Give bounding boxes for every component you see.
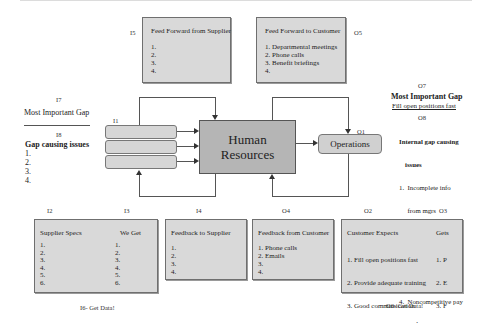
issues-title: Internal gap causing (399, 138, 463, 146)
tag-o3: O3 (439, 207, 447, 214)
connector (177, 161, 194, 162)
col2-title: Gets (436, 229, 449, 237)
connector (272, 196, 349, 197)
connector (272, 179, 273, 196)
tag-i3: I3 (124, 207, 129, 214)
list-item: 3. F (436, 303, 448, 311)
connector (215, 97, 216, 115)
list-item: 1. Incomplete info (399, 184, 463, 192)
list-item: 3. (171, 260, 176, 268)
list-item: 2. Provide adequate training (347, 280, 426, 288)
tag-i2: I2 (47, 207, 52, 214)
list-item: 6. (40, 280, 45, 288)
list-item: 4. (265, 67, 337, 75)
issues-title: issues (399, 161, 463, 169)
tag-o2: O2 (364, 207, 372, 214)
col2-list: 1. 2. 3. 4. 5. 6. (115, 242, 120, 288)
supplier-specs-box: Supplier Specs We Get 1. 2. 3. 4. 5. 6. … (34, 219, 158, 293)
tag-i1: I1 (113, 117, 118, 124)
input-bar-2 (105, 140, 177, 154)
list-item: 6. (115, 280, 120, 288)
tag-o7: O7 (418, 82, 426, 89)
connector (272, 97, 349, 98)
tag-o4: O4 (282, 207, 290, 214)
box-title: Feedback from Customer (258, 229, 329, 237)
top-rule (20, 0, 472, 1)
left-gap-title: Most Important Gap (24, 108, 89, 117)
list-item: 4. (25, 176, 89, 185)
arrow-up-icon (136, 170, 142, 175)
right-gap-value: Fill open positions fast (392, 102, 456, 110)
box-title: Feed Forward to Customer (265, 27, 340, 35)
connector (139, 196, 216, 197)
list-item: 2. Emails (258, 252, 297, 260)
list-item: 1. (171, 244, 176, 252)
input-bar-1 (105, 125, 177, 139)
list-item: 1. (151, 43, 156, 51)
list-item: 4. (171, 268, 176, 276)
item-list: 1. Departmental meetings 2. Phone calls … (265, 43, 337, 75)
hr-title-line2: Resources (200, 147, 295, 162)
col1-title: Supplier Specs (40, 229, 82, 237)
item-list: 1. 2. 3. 4. (171, 244, 176, 276)
box-title: Feed Forward from Supplier (151, 27, 231, 35)
right-gap-title: Most Important Gap (391, 92, 463, 101)
customer-footer: O6- Get Data! (386, 302, 423, 309)
connector (139, 97, 140, 125)
connector (139, 175, 140, 196)
operations-box: Operations (318, 134, 382, 154)
list-item: 3. (25, 167, 89, 176)
list-item: 4. (151, 67, 156, 75)
list-item: 1. Departmental meetings (265, 43, 337, 51)
issues-title: Gap causing issues (25, 140, 89, 149)
list-item: 1. Fill open positions fast (347, 257, 426, 265)
tag-i7: I7 (56, 96, 61, 103)
hr-title-line1: Human (200, 132, 295, 147)
list-item: 2. E (436, 280, 448, 288)
connector (139, 97, 216, 98)
list-item: 3. (258, 260, 297, 268)
divider (24, 125, 90, 126)
connector (177, 146, 194, 147)
feed-forward-customer-box: Feed Forward to Customer 1. Departmental… (256, 17, 346, 83)
supplier-footer: I6- Get Data! (80, 304, 115, 311)
connector (348, 154, 349, 196)
list-item: 4. (258, 268, 297, 276)
col1-list: 1. Fill open positions fast 2. Provide a… (347, 242, 426, 323)
tag-i5: I5 (130, 29, 135, 36)
connector (296, 143, 313, 144)
col1-title: Customer Expects (347, 229, 398, 237)
list-item: 1. Phone calls (258, 244, 297, 252)
list-item: 2. (151, 51, 156, 59)
connector (272, 97, 273, 120)
list-item: 2. Phone calls (265, 51, 337, 59)
item-list: 1. 2. 3. 4. (151, 43, 156, 75)
tag-o8: O8 (418, 114, 426, 121)
item-list: 1. Phone calls 2. Emails 3. 4. (258, 244, 297, 276)
list-item: 2. (171, 252, 176, 260)
customer-expects-box: Customer Expects Gets 1. Fill open posit… (341, 219, 463, 293)
feed-forward-supplier-box: Feed Forward from Supplier 1. 2. 3. 4. (142, 17, 231, 83)
list-item: from mgrs (399, 207, 463, 215)
list-item: 3. (151, 59, 156, 67)
col2-list: 1. P 2. E 3. F 4. G 5. F 6. G 7. P (436, 242, 448, 323)
col2-title: We Get (120, 229, 141, 237)
input-bar-3 (105, 155, 177, 169)
list-item: 1. (25, 149, 89, 158)
list-item: 2. (25, 158, 89, 167)
col1-list: 1. 2. 3. 4. 5. 6. (40, 242, 45, 288)
list-item: 1. P (436, 257, 448, 265)
feedback-supplier-box: Feedback to Supplier 1. 2. 3. 4. (165, 219, 247, 280)
tag-i8: I8 (56, 131, 61, 138)
connector (215, 174, 216, 196)
left-gap-issues: Gap causing issues 1. 2. 3. 4. (25, 140, 89, 185)
list-item: 3. Benefit briefings (265, 59, 337, 67)
box-title: Feedback to Supplier (171, 229, 231, 237)
arrow-up-icon (269, 174, 275, 179)
connector (177, 131, 194, 132)
tag-o5: O5 (354, 29, 362, 36)
human-resources-box: Human Resources (199, 120, 296, 174)
connector (348, 97, 349, 129)
tag-i4: I4 (196, 207, 201, 214)
feedback-customer-box: Feedback from Customer 1. Phone calls 2.… (252, 219, 334, 280)
